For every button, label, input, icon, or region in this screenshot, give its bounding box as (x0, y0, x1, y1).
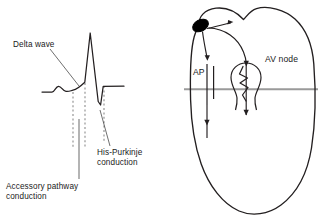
heart-panel-group (184, 7, 318, 214)
ecg-dashed-markers (73, 83, 104, 148)
label-delta-wave: Delta wave (13, 40, 55, 50)
label-his-purkinje-conduction: His-Purkinje conduction (97, 148, 142, 167)
arrow-sa-to-atrium-right (207, 20, 233, 29)
arrow-sa-to-av-node (209, 28, 249, 66)
leader-line-delta-wave (50, 49, 79, 86)
sa-node-icon (190, 17, 210, 35)
accessory-pathway-bundle (207, 64, 214, 105)
wpw-conduction-figure: Delta wave His-Purkinje conduction Acces… (0, 0, 332, 221)
label-accessory-pathway-conduction: Accessory pathway conduction (6, 182, 78, 201)
arrow-accessory-pathway-to-ventricle (204, 105, 209, 138)
label-av-node: AV node (265, 55, 298, 65)
heart-outline-path (190, 7, 315, 214)
leader-line-his-purkinje (100, 110, 110, 146)
arrow-sa-to-accessory-pathway (203, 32, 210, 61)
label-accessory-pathway-ap: AP (193, 68, 205, 78)
